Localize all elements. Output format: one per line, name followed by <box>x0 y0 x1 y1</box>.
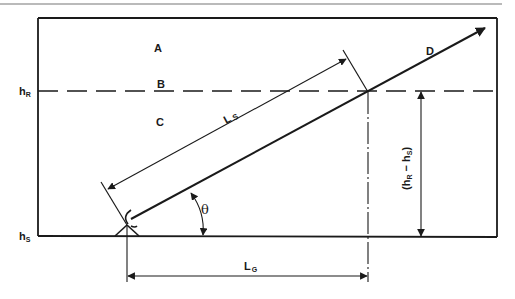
height-difference-label: (hR − hS) <box>400 147 413 190</box>
ls-tick-lower <box>101 182 127 225</box>
ls-tick-upper <box>343 50 368 92</box>
region-label-b: B <box>157 78 165 90</box>
region-label-a: A <box>154 42 162 54</box>
angle-theta-label: θ <box>201 202 209 217</box>
region-label-d: D <box>426 45 434 57</box>
receiver-height-label: hR <box>19 85 31 98</box>
source-height-label: hS <box>19 230 31 243</box>
ground-length-label: LG <box>244 260 258 273</box>
ground-line <box>38 236 497 237</box>
diagram-canvas: A B C D hR hS LS LG θ (hR − hS) <box>0 0 515 299</box>
slant-length-label: LS <box>221 108 240 126</box>
region-label-c: C <box>156 116 164 128</box>
